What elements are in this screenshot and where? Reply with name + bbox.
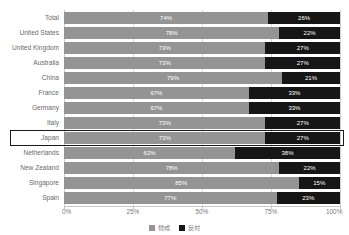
bar-segment-disagree: 22% [279, 162, 340, 174]
bar-value-disagree: 27% [265, 42, 340, 54]
category-label-row: Italy [0, 116, 62, 130]
bar-value-agree: 78% [64, 27, 279, 39]
bar-segment-agree: 62% [64, 147, 235, 159]
bar-segment-disagree: 27% [265, 42, 340, 54]
bar-track: 73%27% [64, 57, 340, 69]
bar-segment-disagree: 38% [235, 147, 340, 159]
legend-item[interactable]: 賛成 [149, 224, 170, 231]
table-row: 73%27% [64, 41, 340, 55]
category-label: Spain [42, 191, 59, 205]
bar-segment-agree: 78% [64, 162, 279, 174]
bar-value-disagree: 38% [235, 147, 340, 159]
bar-value-agree: 67% [64, 87, 249, 99]
bar-segment-disagree: 15% [299, 177, 340, 189]
x-axis-tick-label: 75% [265, 208, 278, 215]
bars-container: 74%26%78%22%73%27%73%27%79%21%67%33%67%3… [64, 10, 340, 206]
legend-label: 反対 [188, 224, 200, 231]
legend-item[interactable]: 反対 [179, 224, 200, 231]
x-axis-tick-label: 0% [62, 208, 71, 215]
bar-segment-disagree: 26% [268, 12, 340, 24]
bar-track: 85%15% [64, 177, 340, 189]
table-row: 73%27% [64, 56, 340, 70]
category-label: Italy [47, 116, 59, 130]
category-label-row: China [0, 71, 62, 85]
bar-value-agree: 74% [64, 12, 268, 24]
bar-segment-agree: 67% [64, 102, 249, 114]
bar-track: 79%21% [64, 72, 340, 84]
bar-value-disagree: 33% [249, 87, 340, 99]
bar-segment-disagree: 27% [265, 132, 340, 144]
table-row: 67%33% [64, 101, 340, 115]
category-label-row: Singapore [0, 176, 62, 190]
bar-segment-agree: 74% [64, 12, 268, 24]
bar-segment-agree: 85% [64, 177, 299, 189]
bar-segment-agree: 67% [64, 87, 249, 99]
bar-value-agree: 73% [64, 42, 265, 54]
bar-value-disagree: 22% [279, 162, 340, 174]
bar-track: 73%27% [64, 42, 340, 54]
bar-segment-disagree: 27% [265, 57, 340, 69]
bar-segment-disagree: 27% [265, 117, 340, 129]
bar-track: 74%26% [64, 12, 340, 24]
bar-segment-agree: 73% [64, 57, 265, 69]
table-row: 78%22% [64, 161, 340, 175]
category-label: New Zealand [20, 161, 59, 175]
bar-track: 73%27% [64, 132, 340, 144]
category-label-row: United States [0, 26, 62, 40]
x-axis-tick-label: 25% [127, 208, 140, 215]
category-label-row: Germany [0, 101, 62, 115]
category-label: Singapore [29, 176, 59, 190]
bar-value-agree: 77% [64, 192, 277, 204]
table-row: 77%23% [64, 191, 340, 205]
bar-value-agree: 78% [64, 162, 279, 174]
bar-value-agree: 62% [64, 147, 235, 159]
category-label: Total [45, 11, 59, 25]
table-row: 85%15% [64, 176, 340, 190]
bar-value-disagree: 33% [249, 102, 340, 114]
bar-segment-disagree: 33% [249, 87, 340, 99]
category-label: France [38, 86, 59, 100]
category-axis-labels: TotalUnited StatesUnited KingdomAustrali… [0, 10, 62, 206]
bar-segment-agree: 78% [64, 27, 279, 39]
bar-value-agree: 73% [64, 57, 265, 69]
bar-segment-disagree: 33% [249, 102, 340, 114]
stacked-bar-chart: TotalUnited StatesUnited KingdomAustrali… [0, 0, 349, 235]
bar-value-disagree: 15% [299, 177, 340, 189]
bar-value-disagree: 27% [265, 132, 340, 144]
bar-value-agree: 79% [64, 72, 282, 84]
plot-area: TotalUnited StatesUnited KingdomAustrali… [0, 10, 349, 206]
bar-segment-agree: 79% [64, 72, 282, 84]
category-label-row: Netherlands [0, 146, 62, 160]
x-axis-tick-label: 50% [196, 208, 209, 215]
category-label-row: New Zealand [0, 161, 62, 175]
table-row: 67%33% [64, 86, 340, 100]
category-label-row: Total [0, 11, 62, 25]
bar-value-disagree: 27% [265, 57, 340, 69]
bar-value-disagree: 27% [265, 117, 340, 129]
table-row: 79%21% [64, 71, 340, 85]
chart-title [0, 0, 349, 4]
bar-value-agree: 73% [64, 117, 265, 129]
bar-segment-agree: 77% [64, 192, 277, 204]
bar-segment-disagree: 22% [279, 27, 340, 39]
bar-track: 73%27% [64, 117, 340, 129]
category-label: Australia [33, 56, 59, 70]
bar-track: 77%23% [64, 192, 340, 204]
table-row: 78%22% [64, 26, 340, 40]
bar-track: 78%22% [64, 162, 340, 174]
x-axis: 0%25%50%75%100% [0, 206, 349, 218]
category-label: United Kingdom [12, 41, 59, 55]
category-label-row: Japan [0, 131, 62, 145]
category-label: China [42, 71, 59, 85]
category-label: United States [19, 26, 59, 40]
category-label: Japan [41, 131, 59, 145]
chart-legend: 賛成反対 [0, 222, 349, 233]
bar-track: 62%38% [64, 147, 340, 159]
bar-track: 67%33% [64, 87, 340, 99]
category-label-row: France [0, 86, 62, 100]
table-row: 62%38% [64, 146, 340, 160]
bar-value-agree: 67% [64, 102, 249, 114]
legend-label: 賛成 [158, 224, 170, 231]
legend-swatch-icon [179, 225, 185, 231]
bar-track: 78%22% [64, 27, 340, 39]
